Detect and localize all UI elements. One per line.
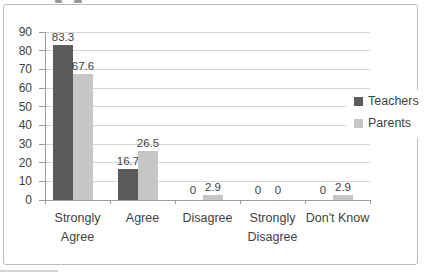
- y-tick-label: 70: [6, 63, 32, 75]
- y-axis-line: [45, 32, 46, 200]
- cropped-title-fragment: [74, 0, 82, 3]
- x-axis-tick: [305, 200, 306, 204]
- data-label: 2.9: [191, 181, 235, 193]
- bar-parents: [138, 151, 158, 200]
- legend-label: Parents: [368, 116, 411, 130]
- y-tick-label: 80: [6, 45, 32, 57]
- legend-swatch-icon: [354, 97, 363, 106]
- data-label: 26.5: [126, 137, 170, 149]
- x-axis-tick: [45, 200, 46, 204]
- gridline: [45, 88, 370, 89]
- category-label: Strongly Agree: [42, 209, 114, 247]
- y-tick-label: 10: [6, 175, 32, 187]
- data-label: 83.3: [41, 31, 85, 43]
- category-label: Strongly Disagree: [237, 209, 309, 247]
- y-tick-label: 20: [6, 157, 32, 169]
- x-axis-tick: [110, 200, 111, 204]
- legend: TeachersParents: [346, 90, 419, 138]
- x-axis-tick: [370, 200, 371, 204]
- gridline: [45, 144, 370, 145]
- y-tick-label: 0: [6, 194, 32, 206]
- data-label: 2.9: [321, 181, 365, 193]
- bar-parents: [203, 195, 223, 200]
- gridline: [45, 50, 370, 51]
- gridline: [45, 106, 370, 107]
- category-label: Agree: [107, 209, 179, 228]
- legend-item-teachers: Teachers: [354, 94, 419, 108]
- legend-item-parents: Parents: [354, 116, 411, 130]
- bar-parents: [333, 195, 353, 200]
- bar-teachers: [118, 169, 138, 200]
- y-tick-label: 50: [6, 101, 32, 113]
- category-label: Disagree: [172, 209, 244, 228]
- gridline: [45, 162, 370, 163]
- data-label: 0: [256, 184, 300, 196]
- category-label: Don't Know: [302, 209, 374, 228]
- chart-figure: 010203040506070809083.316.700067.626.52.…: [0, 0, 428, 272]
- y-tick-label: 60: [6, 82, 32, 94]
- x-axis-tick: [175, 200, 176, 204]
- y-tick-label: 30: [6, 138, 32, 150]
- gridline: [45, 125, 370, 126]
- cropped-title-fragment: [55, 0, 62, 3]
- x-axis-tick: [240, 200, 241, 204]
- legend-label: Teachers: [368, 94, 419, 108]
- gridline: [45, 32, 370, 33]
- y-tick-label: 90: [6, 26, 32, 38]
- y-tick-label: 40: [6, 119, 32, 131]
- legend-swatch-icon: [354, 119, 363, 128]
- data-label: 67.6: [61, 60, 105, 72]
- bar-parents: [73, 74, 93, 200]
